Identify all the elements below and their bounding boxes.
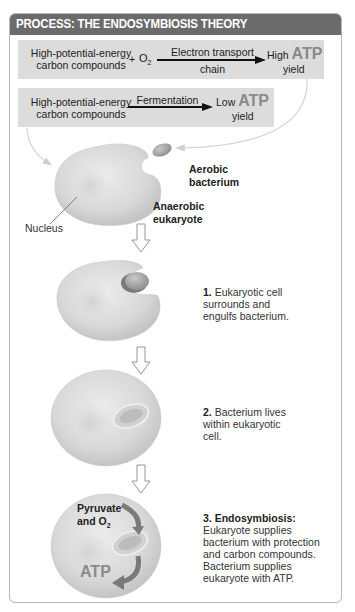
aerobic-bacterium-label: Aerobicbacterium [189,163,239,188]
step-3-description: 3. Endosymbiosis: Eukaryote supplies bac… [203,512,338,584]
step-1-description: 1. Eukaryotic cell surrounds and engulfs… [203,286,338,322]
atp-label: ATP [80,566,111,579]
step-2-description: 2. Bacterium lives within eukaryotic cel… [203,406,338,442]
pyruvate-label: Pyruvateand O2 [77,502,121,532]
host-cell-with-bacterium [51,370,161,466]
down-arrow-icon [132,347,150,374]
aerobic-connector [180,79,307,148]
nucleus-label: Nucleus [25,222,63,235]
down-arrow-icon [132,224,150,252]
engulfing-cell [57,260,160,340]
down-arrow-icon [132,465,150,493]
engulfed-bacterium [125,272,149,290]
anaerobic-eukaryote-label: Anaerobiceukaryote [153,200,204,225]
aerobic-bacterium [151,141,174,159]
fermentation-connector [27,128,48,163]
